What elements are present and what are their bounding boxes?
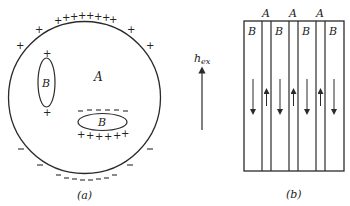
plus-sign: + bbox=[43, 48, 51, 59]
region-a-label: A bbox=[93, 70, 103, 84]
svg-text:+: + bbox=[35, 24, 43, 35]
stripe-b-label: B bbox=[274, 25, 283, 38]
svg-text:+: + bbox=[127, 24, 135, 35]
svg-text:+: + bbox=[104, 131, 112, 142]
stripe-a-label: A bbox=[288, 7, 297, 20]
caption-b: (b) bbox=[286, 188, 302, 201]
stripe-b-label: B bbox=[328, 25, 337, 38]
positive-surface-charges: + + + + + + + + + + + + bbox=[16, 10, 154, 51]
svg-text:+: + bbox=[16, 40, 24, 51]
negative-charges-above-domain bbox=[78, 110, 128, 111]
svg-text:+: + bbox=[146, 40, 154, 51]
plus-sign: + bbox=[43, 107, 51, 118]
field-label: hex bbox=[194, 52, 211, 66]
stripe-b-label: B bbox=[301, 25, 310, 38]
domain-b-horizontal-label: B bbox=[97, 116, 106, 129]
positive-charges-below-domain: + + + + + + bbox=[77, 128, 129, 142]
svg-text:+: + bbox=[109, 14, 117, 25]
negative-surface-charges bbox=[18, 149, 153, 180]
superconductor-intermediate-state-diagram: A B + + B + + + + + + + + bbox=[0, 0, 350, 206]
domain-b-vertical-label: B bbox=[41, 77, 50, 90]
sample-circle bbox=[9, 22, 161, 174]
panel-b: A A A B B B B (b) bbox=[244, 7, 344, 201]
stripe-a-label: A bbox=[315, 7, 324, 20]
external-field: hex bbox=[194, 52, 211, 130]
svg-text:+: + bbox=[95, 131, 103, 142]
stripe-a-label: A bbox=[261, 7, 270, 20]
svg-text:+: + bbox=[86, 130, 94, 141]
caption-a: (a) bbox=[77, 189, 92, 202]
svg-text:+: + bbox=[121, 128, 129, 139]
panel-a: A B + + B + + + + + + + + bbox=[9, 10, 161, 202]
svg-text:+: + bbox=[77, 129, 85, 140]
stripe-b-label: B bbox=[247, 25, 256, 38]
